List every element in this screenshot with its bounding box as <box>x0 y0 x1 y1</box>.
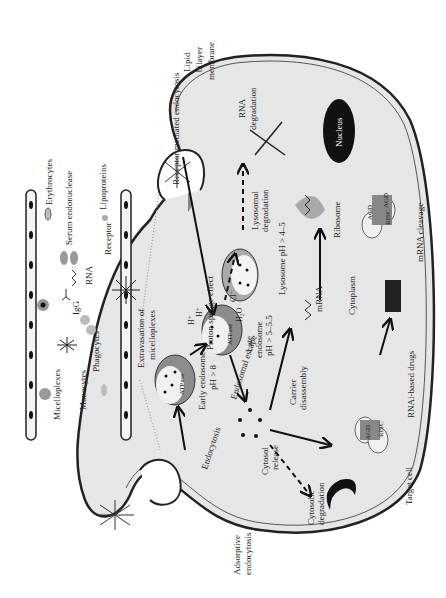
label-early-endosome-1: Early endosome <box>197 352 207 410</box>
label-lipoproteins: Lipoproteins <box>98 164 108 210</box>
label-target-cell: Target cell <box>404 467 414 505</box>
label-agd-3: AGD <box>382 193 390 208</box>
label-rnai-drugs: RNAi-based drugs <box>406 350 416 418</box>
label-late-endosome-3: pH > 5–5.5 <box>264 315 274 356</box>
serum-endonuclease-icon <box>60 251 78 265</box>
label-ribosome: Ribosome <box>332 201 342 238</box>
diagram-canvas: Lipid bilayer membrane Receptor mediated… <box>0 0 446 598</box>
label-serum-endonuclease: Serum endonuclease <box>64 171 74 245</box>
lipoprotein-icon <box>102 215 108 221</box>
label-cytoplasm: Cytoplasm <box>347 276 357 315</box>
igg-icon <box>62 289 70 300</box>
label-cytosol-release-2: release <box>270 445 280 470</box>
label-carrier-2: disassembly <box>298 366 308 410</box>
label-lipid-3: membrane <box>206 42 216 80</box>
early-endosome <box>155 355 195 405</box>
label-mrna-cleavage: mRNA cleavage <box>415 203 425 262</box>
extravasating-micelloplex-icon <box>112 276 140 304</box>
label-adsorptive-2: endocytosis <box>243 532 253 575</box>
label-lysosome-ph: Lysosome pH > 4–5 <box>277 222 287 295</box>
label-receptor: Receptor <box>103 223 113 255</box>
label-mrna: mRNA <box>314 285 324 312</box>
label-erythrocytes: Erythrocytes <box>44 159 54 205</box>
label-cytosolic-degradation-1: Cytosolic <box>306 490 316 525</box>
label-carrier-1: Carrier <box>288 380 298 405</box>
rna-icon <box>72 270 76 286</box>
label-h2o: H₂O <box>235 307 244 322</box>
label-igg: IgG <box>71 301 81 315</box>
vessel-wall-left <box>26 190 36 440</box>
label-agd-1: AGD <box>364 425 372 440</box>
label-monocytes: Monocytes <box>78 370 88 410</box>
label-receptor-mediated: Receptor mediated endocytosis <box>171 72 181 185</box>
label-rna: RNA <box>84 265 94 285</box>
label-cl-minus: Cl⁻ <box>229 290 238 302</box>
label-lysosomal-2: degradation <box>260 189 270 232</box>
label-extravasation-1: Extravasation of <box>136 309 146 368</box>
label-rna-degradation-2: degradation <box>248 87 258 130</box>
label-atpase-late: ATPase <box>226 324 234 345</box>
label-risc-2: RISC <box>384 209 392 225</box>
label-extravasation-2: micelloplexes <box>147 310 157 360</box>
label-micelloplexes: Micelloplexes <box>52 369 62 420</box>
label-proton-sponge: Proton sponge effect <box>205 275 215 350</box>
label-risc-1: RISC <box>377 421 385 437</box>
label-lysosomal-1: Lysosomal <box>250 190 260 230</box>
label-adsorptive-1: Adsorptive <box>232 535 242 575</box>
lysosome <box>222 249 258 301</box>
label-agd-2: AGD <box>366 205 374 220</box>
label-lipid-1: Lipid <box>182 52 192 72</box>
erythrocyte-icon <box>45 208 51 220</box>
label-early-endosome-2: pH > 8 <box>208 364 218 390</box>
label-lipid-2: bilayer <box>194 47 204 72</box>
label-nucleus: Nucleus <box>334 117 344 147</box>
label-rna-degradation-1: RNA <box>237 98 247 118</box>
label-cytosolic-degradation-2: degradation <box>316 482 326 525</box>
erythrocyte-icon-2 <box>101 384 107 396</box>
label-cytosol-release-1: Cytosol <box>260 446 270 475</box>
mrna-target-block <box>385 280 401 312</box>
label-h-plus-2: H⁺ <box>195 307 204 317</box>
adsorptive-invagination <box>140 460 181 505</box>
label-atpase-early: ATPase <box>178 374 186 395</box>
label-phagocytes: Phagocytes <box>91 331 101 372</box>
monocyte-icon-2 <box>39 388 51 400</box>
micelloplex-icon <box>57 337 77 353</box>
vessel-wall-right <box>121 190 131 440</box>
